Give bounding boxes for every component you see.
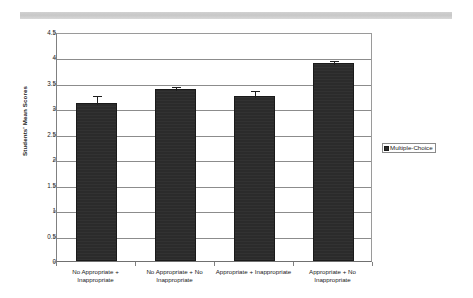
y-axis-tick-mark <box>53 109 56 110</box>
error-bar-cap-3 <box>251 91 260 92</box>
error-bar-1 <box>97 96 98 105</box>
x-axis-tick-mark <box>214 262 215 266</box>
x-axis-tick-mark <box>293 262 294 266</box>
y-axis-tick-mark <box>53 211 56 212</box>
x-axis-label-2: No Appropriate + No Inappropriate <box>135 268 214 285</box>
chart-legend[interactable]: Multiple-Choice <box>382 143 436 153</box>
x-axis-tick-mark <box>372 262 373 266</box>
bar-3 <box>234 96 275 261</box>
x-axis-label-1: No Appropriate + Inappropriate <box>56 268 135 285</box>
y-axis-tick-mark <box>53 185 56 186</box>
x-axis-tick-mark <box>135 262 136 266</box>
gridline <box>57 59 371 60</box>
x-axis-tick-mark <box>56 262 57 266</box>
y-axis-tick-mark <box>53 58 56 59</box>
x-axis-label-3: Appropriate + Inappropriate <box>214 268 293 276</box>
plot-area <box>56 33 372 262</box>
y-axis-tick-mark <box>53 236 56 237</box>
y-axis-tick-mark <box>53 160 56 161</box>
y-axis-tick-mark <box>53 83 56 84</box>
legend-label-multiple-choice: Multiple-Choice <box>390 145 433 151</box>
error-bar-cap-4 <box>330 61 339 62</box>
legend-swatch-multiple-choice <box>384 146 389 151</box>
error-bar-cap-2 <box>172 87 181 88</box>
y-axis-tick-mark <box>53 134 56 135</box>
y-axis-tick-mark <box>53 33 56 34</box>
y-axis-tick-group: 00.511.522.533.544.5 <box>30 0 56 298</box>
bar-4 <box>313 63 354 261</box>
bar-2 <box>155 89 196 261</box>
error-bar-cap-1 <box>93 96 102 97</box>
x-axis-label-4: Appropriate + No Inappropriate <box>293 268 372 285</box>
bar-chart-figure: Students' Mean Scores 00.511.522.533.544… <box>0 0 473 298</box>
bar-1 <box>76 103 117 261</box>
